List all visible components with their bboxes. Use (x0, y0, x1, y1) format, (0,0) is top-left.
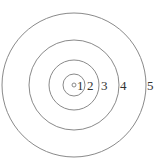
concentric-circles-diagram: 1 2 3 4 5 (0, 0, 159, 168)
label-4: 4 (120, 78, 127, 93)
ring-1 (72, 83, 76, 87)
label-3: 3 (101, 78, 108, 93)
label-5: 5 (147, 78, 154, 93)
label-1: 1 (77, 78, 84, 93)
label-2: 2 (87, 78, 94, 93)
